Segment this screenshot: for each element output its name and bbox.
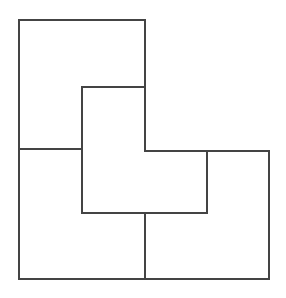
l-shape-dissection-diagram <box>0 0 286 298</box>
inner-division-lines <box>19 87 207 279</box>
